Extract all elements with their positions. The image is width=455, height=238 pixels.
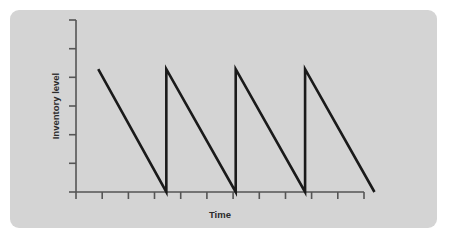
y-axis-title: Inventory level xyxy=(50,73,61,140)
inventory-level-series xyxy=(98,69,374,192)
x-axis-ticks xyxy=(76,192,364,199)
y-axis-ticks xyxy=(69,20,76,192)
x-axis-title: Time xyxy=(209,209,231,220)
inventory-sawtooth-chart: Time Inventory level xyxy=(0,0,455,238)
chart-figure: Time Inventory level xyxy=(0,0,455,238)
